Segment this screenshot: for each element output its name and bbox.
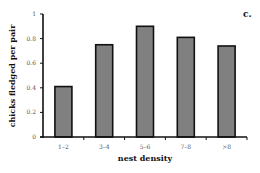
- y-tick-label: 0.4: [26, 84, 36, 91]
- bar-1: [55, 87, 72, 137]
- y-tick-label: 0.6: [26, 59, 36, 66]
- bar-chart: 00.20.40.60.81 1–23–45–67–8>8 nest densi…: [0, 0, 260, 173]
- bar-3: [137, 26, 154, 137]
- bar-2: [96, 45, 113, 137]
- panel-label: c.: [243, 9, 252, 19]
- y-tick-label: 0.8: [26, 35, 36, 42]
- x-axis-title: nest density: [118, 153, 173, 163]
- y-ticks-group: 00.20.40.60.81: [26, 10, 43, 140]
- y-axis-title: chicks fledged per pair: [7, 24, 17, 127]
- bars-group: [55, 26, 235, 137]
- x-tick-label: 7–8: [180, 143, 191, 150]
- bar-5: [218, 46, 235, 137]
- x-tick-label: 3–4: [99, 143, 110, 150]
- y-tick-label: 0: [32, 133, 36, 140]
- y-tick-label: 1: [32, 10, 36, 17]
- x-ticks-group: 1–23–45–67–8>8: [58, 137, 247, 150]
- x-tick-label: 1–2: [58, 143, 69, 150]
- bar-4: [177, 37, 194, 137]
- x-tick-label: 5–6: [140, 143, 151, 150]
- x-tick-label: >8: [222, 143, 231, 150]
- y-tick-label: 0.2: [26, 108, 36, 115]
